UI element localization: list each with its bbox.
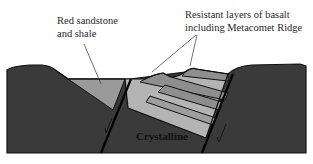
crystalline-label: Crystalline <box>136 130 188 142</box>
basalt-leader-line-2 <box>190 35 197 66</box>
geologic-cross-section: Red sandstone and shale Resistant layers… <box>0 0 313 164</box>
ground-surface <box>58 72 125 79</box>
sandstone-label-line2: and shale <box>57 28 97 39</box>
basalt-label-line2: including Metacomet Ridge <box>185 22 303 33</box>
sandstone-leader-line <box>84 44 101 84</box>
basalt-label-line1: Resistant layers of basalt <box>185 9 290 20</box>
sandstone-label-line1: Red sandstone <box>57 15 118 26</box>
basalt-leader-line-1 <box>152 35 196 72</box>
